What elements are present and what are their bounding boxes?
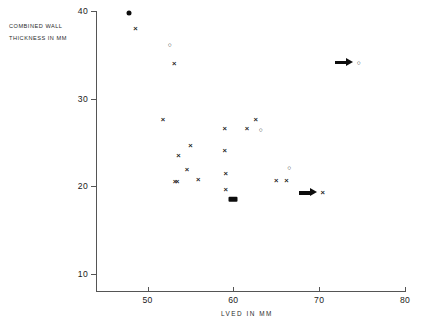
data-point-circle: ○ bbox=[259, 127, 263, 134]
y-tick-label-20: 20 bbox=[62, 181, 88, 191]
y-tick-40 bbox=[91, 11, 96, 12]
y-tick-30 bbox=[91, 99, 96, 100]
data-point-overlapping-pair: ×× bbox=[173, 178, 177, 186]
x-tick-label-50: 50 bbox=[135, 295, 161, 305]
data-point-cross: × bbox=[196, 176, 200, 184]
x-tick-label-60: 60 bbox=[220, 295, 246, 305]
x-tick-80 bbox=[405, 287, 406, 292]
data-point-cross: × bbox=[223, 186, 227, 194]
data-point-cross: × bbox=[253, 116, 257, 124]
y-tick-10 bbox=[91, 274, 96, 275]
annotation-line-2: THICKNESS IN MM bbox=[9, 33, 101, 45]
data-point-cross: × bbox=[188, 142, 192, 150]
y-tick-label-10: 10 bbox=[62, 269, 88, 279]
data-point-cross: × bbox=[320, 189, 324, 197]
y-tick-20 bbox=[91, 186, 96, 187]
x-tick-60 bbox=[233, 287, 234, 292]
x-axis-title: LVED IN MM bbox=[221, 310, 273, 317]
data-point-cross: × bbox=[223, 170, 227, 178]
data-point-filled bbox=[127, 10, 132, 15]
y-tick-label-40: 40 bbox=[62, 6, 88, 16]
arrow-right-icon bbox=[335, 58, 353, 68]
data-point-cross: × bbox=[223, 125, 227, 133]
annotation-line-1: COMBINED WALL bbox=[9, 21, 101, 33]
arrow-right-icon bbox=[299, 188, 317, 198]
x-tick-label-80: 80 bbox=[392, 295, 418, 305]
arrow-head bbox=[346, 58, 353, 66]
x-tick-label-70: 70 bbox=[306, 295, 332, 305]
data-point-filled-merged bbox=[229, 197, 238, 202]
data-point-cross: × bbox=[245, 125, 249, 133]
data-point-cross: × bbox=[185, 166, 189, 174]
x-tick-50 bbox=[148, 287, 149, 292]
y-axis-annotation: COMBINED WALL THICKNESS IN MM bbox=[9, 21, 101, 44]
x-axis-line bbox=[96, 291, 405, 292]
data-point-cross: × bbox=[172, 60, 176, 68]
y-tick-label-30: 30 bbox=[62, 94, 88, 104]
x-tick-70 bbox=[319, 287, 320, 292]
data-point-circle: ○ bbox=[357, 59, 361, 66]
data-point-cross: × bbox=[274, 177, 278, 185]
data-point-cross: × bbox=[223, 147, 227, 155]
data-point-cross: × bbox=[176, 152, 180, 160]
data-point-cross: × bbox=[284, 177, 288, 185]
y-axis-line bbox=[96, 11, 97, 292]
data-point-cross: × bbox=[161, 117, 165, 125]
data-point-cross: × bbox=[133, 25, 137, 33]
data-point-circle: ○ bbox=[168, 42, 172, 49]
scatter-plot: COMBINED WALL THICKNESS IN MM 10203040 5… bbox=[0, 0, 446, 328]
arrow-head bbox=[310, 188, 317, 196]
data-point-circle: ○ bbox=[287, 164, 291, 171]
